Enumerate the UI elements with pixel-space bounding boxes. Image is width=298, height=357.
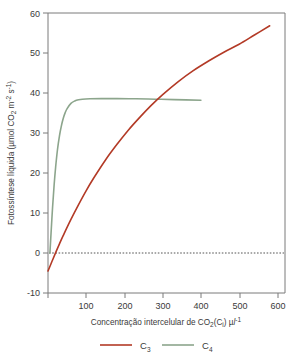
- photosynthesis-co2-response-chart: -10 0 10 20 30 40 50 60 100 200 300 400 …: [0, 0, 298, 357]
- y-tick-label: 40: [30, 88, 40, 98]
- x-tick-label: 300: [155, 301, 170, 311]
- y-axis-title-a: Fotossíntese líquida (µmol CO: [7, 114, 16, 225]
- x-axis-title-c: ) µ: [224, 318, 234, 327]
- y-tick-label: -10: [27, 288, 40, 298]
- x-axis-title: Concentração intercelular de CO2(Ci) µl-…: [91, 316, 242, 328]
- y-tick-label: 20: [30, 168, 40, 178]
- y-axis-title: Fotossíntese líquida (µmol CO2 m-2 s-1): [5, 81, 17, 225]
- x-axis-title-sup-1: -1: [235, 316, 241, 323]
- y-tick-label: 50: [30, 48, 40, 58]
- legend-label-c4-sub: 4: [209, 346, 213, 353]
- x-axis-title-b: (C: [214, 318, 223, 327]
- x-tick-label: 100: [78, 301, 93, 311]
- x-tick-label: 400: [193, 301, 208, 311]
- x-axis-title-a: Concentração intercelular de CO: [91, 318, 210, 327]
- x-tick-label: 600: [270, 301, 285, 311]
- y-tick-label: 30: [30, 128, 40, 138]
- y-tick-label: 10: [30, 208, 40, 218]
- x-tick-label: 200: [117, 301, 132, 311]
- y-axis-title-b: m: [7, 101, 16, 110]
- y-axis-title-d: ): [7, 81, 16, 84]
- chart-background: [0, 0, 298, 357]
- chart-figure: -10 0 10 20 30 40 50 60 100 200 300 400 …: [0, 0, 298, 357]
- legend-label-c3-sub: 3: [147, 346, 151, 353]
- x-tick-label: 500: [232, 301, 247, 311]
- y-tick-label: 60: [30, 9, 40, 19]
- y-tick-label: 0: [35, 248, 40, 258]
